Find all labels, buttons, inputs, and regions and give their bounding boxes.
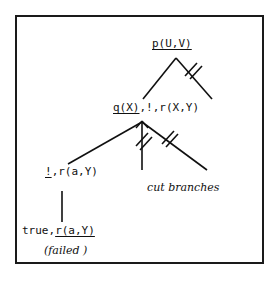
edge-p-to-q: [143, 58, 176, 99]
node-goal-q-rest: ,!,r(X,Y): [140, 101, 200, 114]
tree-edges: [0, 0, 280, 289]
node-goal-true: true,r(a,Y): [22, 225, 95, 237]
edge-q-to-dead-right-cut: [142, 122, 207, 170]
label-cut-branches: cut branches: [147, 182, 220, 194]
node-goal-cut-rest: ,r(a,Y): [52, 165, 98, 178]
node-goal-q: q(X),!,r(X,Y): [113, 102, 199, 114]
edge-q-to-cut: [68, 122, 142, 164]
label-failed: (failed ): [44, 245, 87, 257]
selected-literal-r: r(a,Y): [55, 224, 95, 237]
node-goal-true-head: true,: [22, 224, 55, 237]
edge-p-to-dead-cut: [176, 58, 212, 99]
figure-canvas: p(U,V) q(X),!,r(X,Y) !,r(a,Y) true,r(a,Y…: [0, 0, 280, 289]
node-goal-p: p(U,V): [152, 38, 192, 50]
edge-q-to-dead-vertical-cut: [136, 122, 152, 170]
selected-literal-q: q(X): [113, 101, 140, 114]
node-goal-cut: !,r(a,Y): [45, 166, 98, 178]
selected-literal-p: p(U,V): [152, 37, 192, 50]
selected-literal-cut: !: [45, 165, 52, 178]
